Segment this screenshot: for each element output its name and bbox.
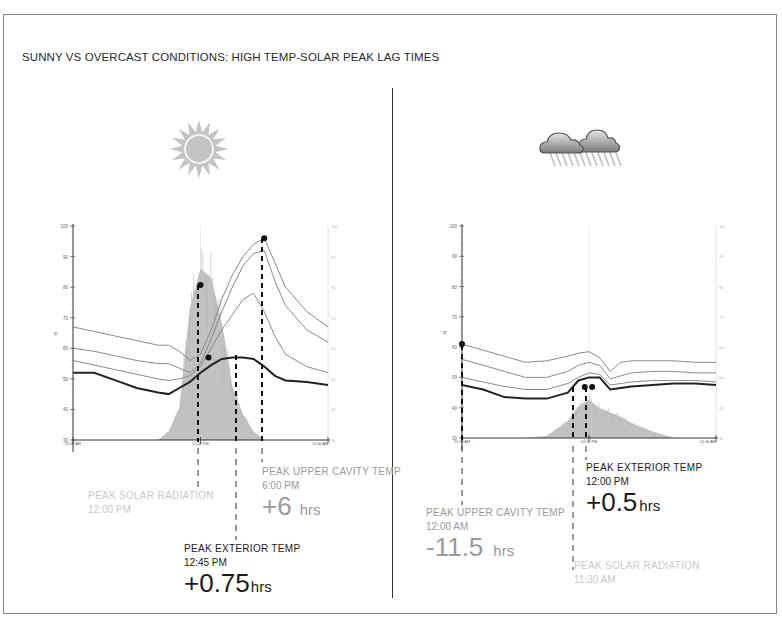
svg-text:30: 30 — [331, 438, 336, 443]
lag-number: +0.5 — [586, 487, 637, 517]
svg-text:50: 50 — [331, 377, 336, 382]
svg-text:90: 90 — [63, 255, 69, 260]
svg-text:100: 100 — [449, 224, 457, 229]
lag-number: +0.75 — [184, 568, 250, 598]
peak-marker — [589, 384, 595, 390]
peak-marker — [459, 341, 465, 347]
svg-text:60: 60 — [331, 346, 336, 351]
label-name: PEAK EXTERIOR TEMP — [586, 462, 702, 473]
lag-number: -11.5 — [426, 532, 483, 562]
peak-marker — [198, 282, 204, 288]
lag-unit: hrs — [251, 578, 272, 595]
svg-text:12:00 AM: 12:00 AM — [65, 442, 81, 446]
label-time: 12:45 PM — [184, 557, 300, 568]
lag-value: +0.5hrs — [586, 489, 702, 515]
svg-text:°F: °F — [442, 331, 447, 336]
svg-text:30: 30 — [719, 436, 724, 441]
svg-text:12:00 AM: 12:00 AM — [454, 440, 470, 444]
label-name: PEAK UPPER CAVITY TEMP — [426, 507, 565, 518]
svg-text:60: 60 — [719, 345, 724, 350]
label-time: 12:00 AM — [426, 521, 565, 532]
overcast-exterior-peak-label: PEAK EXTERIOR TEMP 12:00 PM +0.5hrs — [586, 462, 702, 515]
svg-text:40: 40 — [452, 406, 458, 411]
svg-text:°F: °F — [53, 332, 58, 337]
label-time: 6:00 PM — [262, 480, 401, 491]
svg-text:100: 100 — [331, 224, 338, 229]
svg-text:80: 80 — [719, 285, 724, 290]
overcast-solar-peak-label: PEAK SOLAR RADIATION 11:30 AM — [574, 560, 700, 585]
lag-value: +6hrs — [262, 493, 401, 519]
label-name: PEAK EXTERIOR TEMP — [184, 543, 300, 554]
svg-text:60: 60 — [63, 346, 69, 351]
lag-value: +0.75hrs — [184, 570, 300, 596]
label-name: PEAK SOLAR RADIATION — [574, 560, 700, 571]
svg-text:80: 80 — [63, 285, 69, 290]
label-name: PEAK UPPER CAVITY TEMP — [262, 466, 401, 477]
svg-text:50: 50 — [63, 377, 69, 382]
svg-text:40: 40 — [331, 407, 336, 412]
svg-text:70: 70 — [452, 315, 458, 320]
lag-number: +6 — [262, 491, 292, 521]
svg-text:60: 60 — [452, 345, 458, 350]
label-time: 11:30 AM — [574, 574, 700, 585]
peak-marker — [261, 235, 267, 241]
svg-text:90: 90 — [452, 254, 458, 259]
svg-text:40: 40 — [719, 406, 724, 411]
svg-text:12:00 PM: 12:00 PM — [581, 440, 597, 444]
svg-text:50: 50 — [452, 375, 458, 380]
label-time: 12:00 PM — [88, 504, 214, 515]
label-name: PEAK SOLAR RADIATION — [88, 490, 214, 501]
overcast-upper-cavity-peak-label: PEAK UPPER CAVITY TEMP 12:00 AM -11.5hrs — [426, 507, 565, 560]
sunny-solar-peak-label: PEAK SOLAR RADIATION 12:00 PM — [88, 490, 214, 515]
charts-canvas: 3030404050506060707080809090100100°F12:0… — [0, 0, 782, 623]
peak-marker — [582, 384, 588, 390]
svg-text:12:00 AM: 12:00 AM — [700, 440, 716, 444]
sunny-upper-cavity-peak-label: PEAK UPPER CAVITY TEMP 6:00 PM +6hrs — [262, 466, 401, 519]
svg-text:40: 40 — [63, 407, 69, 412]
svg-text:12:00 PM: 12:00 PM — [192, 442, 208, 446]
svg-text:50: 50 — [719, 375, 724, 380]
svg-text:12:00 AM: 12:00 AM — [312, 442, 328, 446]
lag-unit: hrs — [639, 497, 660, 514]
lag-unit: hrs — [300, 501, 321, 518]
peak-marker — [205, 354, 211, 360]
svg-text:90: 90 — [331, 255, 336, 260]
sunny-exterior-peak-label: PEAK EXTERIOR TEMP 12:45 PM +0.75hrs — [184, 543, 300, 596]
svg-text:80: 80 — [331, 285, 336, 290]
label-time: 12:00 PM — [586, 476, 702, 487]
svg-text:90: 90 — [719, 254, 724, 259]
lag-unit: hrs — [493, 542, 514, 559]
svg-text:70: 70 — [331, 316, 336, 321]
svg-text:70: 70 — [63, 316, 69, 321]
svg-text:80: 80 — [452, 285, 458, 290]
svg-text:70: 70 — [719, 315, 724, 320]
svg-text:100: 100 — [719, 224, 726, 229]
svg-text:100: 100 — [60, 224, 68, 229]
lag-value: -11.5hrs — [426, 534, 565, 560]
solar-radiation-area — [462, 400, 716, 438]
